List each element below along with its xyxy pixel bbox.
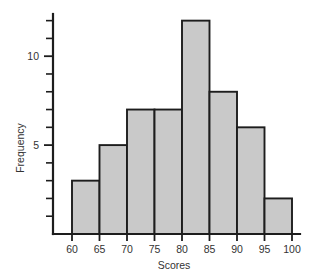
y-tick-label: 10 xyxy=(27,50,39,62)
histogram-bar xyxy=(72,181,100,234)
histogram-bar xyxy=(100,145,128,234)
x-tick-label: 95 xyxy=(259,243,271,255)
x-axis-title: Scores xyxy=(158,259,191,271)
histogram-bar xyxy=(210,92,238,234)
x-tick-label: 85 xyxy=(204,243,216,255)
y-axis-tick-labels: 510 xyxy=(27,50,39,151)
x-tick-label: 65 xyxy=(94,243,106,255)
y-tick-label: 5 xyxy=(33,139,39,151)
x-tick-label: 75 xyxy=(149,243,161,255)
bars-group xyxy=(72,21,292,234)
histogram-bar xyxy=(182,21,210,234)
x-tick-label: 100 xyxy=(283,243,301,255)
x-tick-label: 90 xyxy=(231,243,243,255)
x-tick-label: 60 xyxy=(66,243,78,255)
y-axis-ticks xyxy=(44,21,53,217)
x-tick-label: 80 xyxy=(176,243,188,255)
histogram-bar xyxy=(155,110,183,234)
x-tick-label: 70 xyxy=(121,243,133,255)
histogram-bar xyxy=(265,198,293,234)
histogram-plot: 510 6065707580859095100 Scores Frequency xyxy=(0,0,316,277)
x-axis-tick-labels: 6065707580859095100 xyxy=(66,243,301,255)
histogram-bar xyxy=(237,127,265,234)
histogram-bar xyxy=(127,110,155,234)
y-axis-title: Frequency xyxy=(14,122,26,172)
histogram-figure: 510 6065707580859095100 Scores Frequency xyxy=(0,0,316,277)
